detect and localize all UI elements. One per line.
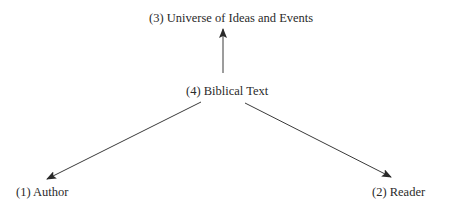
node-reader: (2) Reader <box>372 185 425 199</box>
arrow-text-to-author <box>47 102 201 179</box>
node-biblical-text: (4) Biblical Text <box>186 84 268 98</box>
node-universe: (3) Universe of Ideas and Events <box>149 11 313 25</box>
arrow-text-to-reader <box>245 103 391 177</box>
node-author: (1) Author <box>16 185 68 199</box>
arrows-layer <box>0 0 449 212</box>
